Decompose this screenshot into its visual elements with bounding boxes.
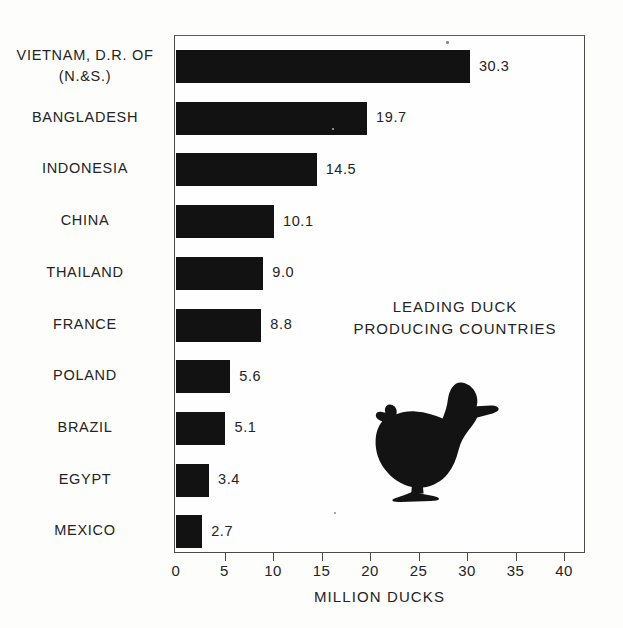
value-label: 5.1 bbox=[234, 419, 256, 435]
x-axis-tick bbox=[370, 553, 371, 561]
category-label: MEXICO bbox=[0, 520, 170, 541]
bar bbox=[176, 257, 263, 290]
x-axis-tick bbox=[467, 553, 468, 561]
x-axis-title: MILLION DUCKS bbox=[174, 588, 585, 605]
category-label-line: INDONESIA bbox=[0, 158, 170, 179]
category-label: THAILAND bbox=[0, 262, 170, 283]
category-label-line: MEXICO bbox=[0, 520, 170, 541]
bar bbox=[176, 464, 209, 497]
category-label: INDONESIA bbox=[0, 158, 170, 179]
value-label: 10.1 bbox=[283, 213, 314, 229]
value-label: 9.0 bbox=[272, 264, 294, 280]
x-axis-tick bbox=[564, 553, 565, 561]
category-label-line: BANGLADESH bbox=[0, 107, 170, 128]
x-axis-tick bbox=[273, 553, 274, 561]
x-axis-tick-label: 30 bbox=[458, 562, 476, 579]
category-label-line: THAILAND bbox=[0, 262, 170, 283]
category-label-line: EGYPT bbox=[0, 469, 170, 490]
value-label: 3.4 bbox=[218, 471, 240, 487]
category-label: BRAZIL bbox=[0, 417, 170, 438]
x-axis-tick-label: 25 bbox=[410, 562, 428, 579]
bar bbox=[176, 50, 470, 83]
value-label: 30.3 bbox=[479, 58, 510, 74]
scan-speck bbox=[334, 512, 336, 514]
bar bbox=[176, 360, 230, 393]
value-label: 8.8 bbox=[270, 316, 292, 332]
category-label: EGYPT bbox=[0, 469, 170, 490]
category-label: FRANCE bbox=[0, 314, 170, 335]
x-axis-tick-label: 35 bbox=[507, 562, 525, 579]
bar bbox=[176, 515, 202, 548]
scan-speck bbox=[332, 128, 334, 130]
bar bbox=[176, 412, 225, 445]
bar bbox=[176, 205, 274, 238]
category-label-line: VIETNAM, D.R. OF bbox=[0, 45, 170, 66]
category-label-line: POLAND bbox=[0, 365, 170, 386]
x-axis-tick-label: 20 bbox=[361, 562, 379, 579]
category-label-line: FRANCE bbox=[0, 314, 170, 335]
x-axis-tick-label: 10 bbox=[264, 562, 282, 579]
category-label-line: (N.&S.) bbox=[0, 66, 170, 87]
category-label: CHINA bbox=[0, 210, 170, 231]
value-label: 5.6 bbox=[239, 368, 261, 384]
category-label: POLAND bbox=[0, 365, 170, 386]
bar bbox=[176, 153, 317, 186]
duck-silhouette-icon bbox=[365, 372, 505, 507]
value-label: 2.7 bbox=[211, 523, 233, 539]
category-label: BANGLADESH bbox=[0, 107, 170, 128]
x-axis-tick bbox=[322, 553, 323, 561]
x-axis-tick bbox=[225, 553, 226, 561]
bar bbox=[176, 102, 367, 135]
category-label-line: BRAZIL bbox=[0, 417, 170, 438]
x-axis-tick bbox=[419, 553, 420, 561]
chart-page: VIETNAM, D.R. OF(N.&S.)BANGLADESHINDONES… bbox=[0, 0, 623, 628]
chart-title-line-2: PRODUCING COUNTRIES bbox=[330, 318, 580, 340]
bar bbox=[176, 309, 261, 342]
x-axis-tick-label: 40 bbox=[555, 562, 573, 579]
x-axis-tick-label: 15 bbox=[313, 562, 331, 579]
x-axis-tick-label: 5 bbox=[220, 562, 229, 579]
value-label: 19.7 bbox=[376, 109, 407, 125]
category-label-line: CHINA bbox=[0, 210, 170, 231]
chart-title: LEADING DUCK PRODUCING COUNTRIES bbox=[330, 296, 580, 340]
value-label: 14.5 bbox=[326, 161, 357, 177]
chart-title-line-1: LEADING DUCK bbox=[330, 296, 580, 318]
category-label: VIETNAM, D.R. OF(N.&S.) bbox=[0, 45, 170, 87]
x-axis-tick-label: 0 bbox=[172, 562, 181, 579]
x-axis-tick bbox=[516, 553, 517, 561]
scan-speck bbox=[446, 41, 449, 44]
